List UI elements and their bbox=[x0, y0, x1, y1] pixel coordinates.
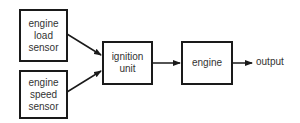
block-label-line: sensor bbox=[28, 101, 58, 113]
arrow-load-to-ignition bbox=[67, 34, 101, 55]
engine-speed-sensor-block: engine speed sensor bbox=[19, 70, 68, 119]
block-label-line: load bbox=[34, 30, 53, 42]
ignition-unit-block: ignition unit bbox=[102, 41, 153, 85]
block-label-line: engine bbox=[28, 77, 58, 89]
block-label-line: engine bbox=[28, 18, 58, 30]
block-label-line: sensor bbox=[28, 42, 58, 54]
arrow-speed-to-ignition bbox=[67, 71, 101, 92]
engine-block: engine bbox=[181, 41, 233, 85]
engine-load-sensor-block: engine load sensor bbox=[19, 9, 68, 62]
block-label-line: ignition bbox=[112, 51, 144, 63]
block-label-line: engine bbox=[192, 57, 222, 69]
output-label: output bbox=[256, 56, 284, 67]
block-label-line: unit bbox=[119, 63, 135, 75]
block-label-line: speed bbox=[30, 89, 57, 101]
